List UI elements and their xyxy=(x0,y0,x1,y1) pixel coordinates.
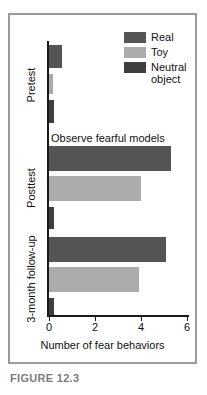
figure-caption: FIGURE 12.3 xyxy=(10,372,79,384)
bar-pretest-neutral xyxy=(49,100,54,123)
bar-posttest-toy xyxy=(49,176,141,201)
figure-frame: 0 2 4 6 Observe fearful models Pretest P… xyxy=(8,13,197,364)
bar-pretest-toy xyxy=(49,74,53,94)
x-tick-label-4: 4 xyxy=(131,321,151,333)
category-label-posttest: Posttest xyxy=(25,143,37,233)
x-tick-label-6: 6 xyxy=(177,321,197,333)
legend-swatch-toy xyxy=(124,47,146,58)
legend-label-real: Real xyxy=(151,31,174,43)
chart-legend: Real Toy Neutral object xyxy=(124,31,196,88)
legend-item-neutral-object: Neutral object xyxy=(124,61,196,85)
bar-posttest-neutral xyxy=(49,207,54,229)
x-tick-label-0: 0 xyxy=(39,321,59,333)
x-axis-title: Number of fear behaviors xyxy=(10,339,195,351)
bar-posttest-real xyxy=(49,146,171,171)
bar-followup-neutral xyxy=(49,298,54,315)
category-label-followup: 3-month follow-up xyxy=(25,234,37,324)
category-label-pretest: Pretest xyxy=(25,40,37,130)
bar-pretest-real xyxy=(49,45,62,68)
legend-item-toy: Toy xyxy=(124,46,196,58)
x-axis-line xyxy=(47,315,189,317)
bar-followup-real xyxy=(49,237,166,262)
observe-fearful-models-annotation: Observe fearful models xyxy=(51,132,165,144)
legend-swatch-real xyxy=(124,32,146,43)
x-tick-label-2: 2 xyxy=(85,321,105,333)
legend-label-toy: Toy xyxy=(151,46,168,58)
chart-plot-area: 0 2 4 6 Observe fearful models Pretest P… xyxy=(10,15,195,362)
legend-item-real: Real xyxy=(124,31,196,43)
legend-label-neutral-object: Neutral object xyxy=(151,61,196,85)
legend-swatch-neutral-object xyxy=(124,62,146,73)
bar-followup-toy xyxy=(49,267,139,292)
